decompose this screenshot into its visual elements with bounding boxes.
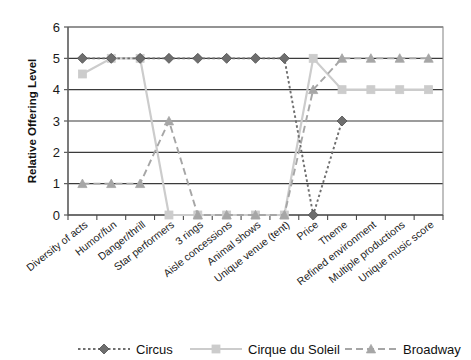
legend-label: Circus [136, 342, 173, 357]
series-line [82, 58, 342, 215]
legend-item-broadway[interactable]: Broadway [345, 342, 461, 357]
y-tick-label-0: 0 [53, 208, 60, 223]
offering-level-line-chart: 0123456Relative Offering LevelDiversity … [0, 0, 471, 360]
datapoint-marker [78, 70, 86, 78]
legend-marker-swatch [212, 345, 220, 353]
series-line [82, 58, 428, 215]
y-tick-label-1: 1 [53, 176, 60, 191]
series-broadway [78, 54, 433, 219]
datapoint-marker [367, 86, 375, 94]
y-tick-label-3: 3 [53, 114, 60, 129]
datapoint-marker [425, 86, 433, 94]
legend-item-circus[interactable]: Circus [78, 342, 173, 357]
legend-marker-swatch [99, 344, 109, 354]
chart-legend: CircusCirque du SoleilBroadway [78, 342, 461, 357]
datapoint-marker [165, 211, 173, 219]
datapoint-marker [193, 53, 203, 63]
legend-item-cirque-du-soleil[interactable]: Cirque du Soleil [190, 342, 340, 357]
legend-label: Broadway [403, 342, 461, 357]
series-cirque-du-soleil [78, 54, 432, 219]
y-tick-label-4: 4 [53, 82, 60, 97]
datapoint-marker [396, 86, 404, 94]
datapoint-marker [338, 86, 346, 94]
datapoint-marker [222, 53, 232, 63]
datapoint-marker [309, 54, 317, 62]
y-tick-label-5: 5 [53, 51, 60, 66]
datapoint-marker [77, 53, 87, 63]
y-tick-label-6: 6 [53, 20, 60, 35]
series-line [82, 58, 428, 215]
y-tick-label-2: 2 [53, 145, 60, 160]
legend-label: Cirque du Soleil [248, 342, 340, 357]
datapoint-marker [164, 53, 174, 63]
chart-container: 0123456Relative Offering LevelDiversity … [0, 0, 471, 360]
datapoint-marker [279, 53, 289, 63]
datapoint-marker [337, 116, 347, 126]
datapoint-marker [251, 53, 261, 63]
series-circus [77, 53, 347, 220]
y-gridlines-group: 0123456 [53, 20, 443, 223]
y-axis-title: Relative Offering Level [26, 59, 38, 184]
x-axis-labels-group: Diversity of actsHumor/funDanger/thrillS… [24, 218, 436, 287]
